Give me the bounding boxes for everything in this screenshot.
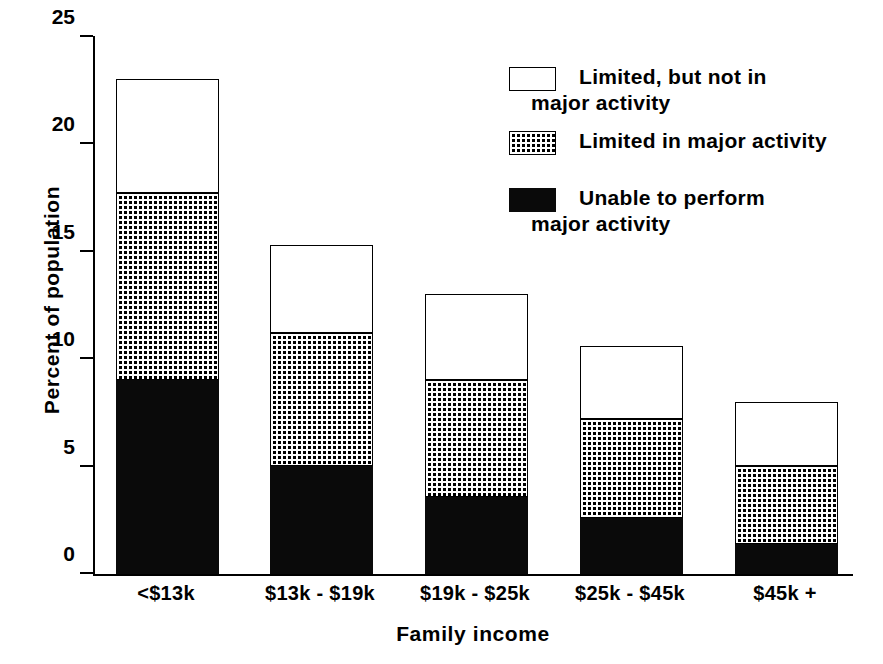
- bar-1: [270, 245, 373, 574]
- bar-0-segment-0: [116, 380, 219, 574]
- y-tick-label-10: 10: [52, 328, 75, 349]
- bar-4-segment-2: [735, 402, 838, 467]
- y-axis-title: Percent of population: [40, 150, 64, 450]
- legend-swatch-dotted-icon: [509, 131, 556, 155]
- legend-label-0-line2: major activity: [509, 90, 869, 116]
- bar-4-segment-1: [735, 466, 838, 543]
- y-tick-label-5: 5: [63, 436, 75, 457]
- x-category-label-2: $19k - $25k: [390, 582, 560, 605]
- y-tick-label-15: 15: [52, 221, 75, 242]
- legend-label-0: Limited, but not in major activity: [509, 65, 869, 115]
- legend-label-2-line1: Unable to perform: [579, 186, 765, 209]
- bar-2: [425, 294, 528, 574]
- legend-label-2: Unable to perform major activity: [509, 186, 869, 236]
- y-axis-line: [93, 36, 95, 576]
- bar-2-segment-1: [425, 380, 528, 496]
- y-tick-label-0: 0: [63, 543, 75, 564]
- bar-0-segment-1: [116, 193, 219, 380]
- legend-item-unable-perform: Unable to perform major activity: [509, 185, 869, 236]
- bar-4: [735, 402, 838, 574]
- bar-3: [580, 346, 683, 574]
- legend-label-0-line1: Limited, but not in: [579, 65, 767, 88]
- legend-item-limited-not-major: Limited, but not in major activity: [509, 64, 869, 115]
- legend: Limited, but not in major activity Limit…: [509, 64, 869, 249]
- x-category-label-3: $25k - $45k: [545, 582, 715, 605]
- bar-3-segment-2: [580, 346, 683, 419]
- bar-0-segment-2: [116, 79, 219, 193]
- bar-2-segment-2: [425, 294, 528, 380]
- bar-3-segment-0: [580, 518, 683, 574]
- legend-label-1: Limited in major activity: [579, 129, 827, 152]
- legend-item-limited-major: Limited in major activity: [509, 128, 869, 172]
- y-tick-label-20: 20: [52, 113, 75, 134]
- bar-1-segment-1: [270, 333, 373, 466]
- legend-label-2-line2: major activity: [509, 211, 869, 237]
- bar-chart: Percent of population 0 5 10 15 20 25: [0, 0, 883, 664]
- bar-2-segment-0: [425, 497, 528, 574]
- x-axis-title: Family income: [93, 622, 853, 646]
- x-axis-line: [93, 574, 853, 576]
- legend-label-1-line1: Limited in major activity: [579, 129, 827, 152]
- bar-1-segment-0: [270, 466, 373, 574]
- x-category-label-1: $13k - $19k: [235, 582, 405, 605]
- x-category-label-0: <$13k: [81, 582, 251, 605]
- bar-3-segment-1: [580, 419, 683, 518]
- bar-4-segment-0: [735, 544, 838, 574]
- y-tick-label-25: 25: [52, 6, 75, 27]
- legend-swatch-white-icon: [509, 67, 556, 91]
- bar-1-segment-2: [270, 245, 373, 333]
- bar-0: [116, 79, 219, 574]
- x-category-label-4: $45k +: [700, 582, 870, 605]
- legend-swatch-black-icon: [509, 188, 556, 212]
